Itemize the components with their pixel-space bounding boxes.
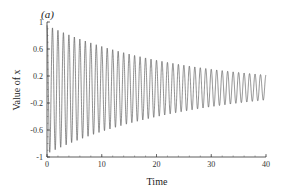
x-tick-label: 20: [153, 160, 161, 169]
y-tick-label: -0.6: [30, 126, 43, 135]
axes: [47, 22, 266, 157]
x-axis-label: Time: [147, 176, 168, 187]
x-tick-label: 40: [262, 160, 270, 169]
x-tick-label: 30: [207, 160, 215, 169]
x-tick-label: 10: [98, 160, 106, 169]
y-axis-label: Value of x: [11, 69, 22, 110]
y-tick-label: -0.2: [30, 99, 43, 108]
x-axis-ticks: 010203040: [45, 154, 270, 169]
x-tick-label: 0: [45, 160, 49, 169]
y-tick-label: 0.2: [33, 72, 43, 81]
y-tick-label: 1: [39, 18, 43, 27]
y-tick-label: -1: [36, 153, 43, 162]
signal-line: [47, 25, 266, 152]
y-tick-label: 0.6: [33, 45, 43, 54]
signal-path: [47, 25, 266, 152]
chart: (a) 10.60.2-0.2-0.6-1 010203040 Time Val…: [0, 0, 283, 194]
